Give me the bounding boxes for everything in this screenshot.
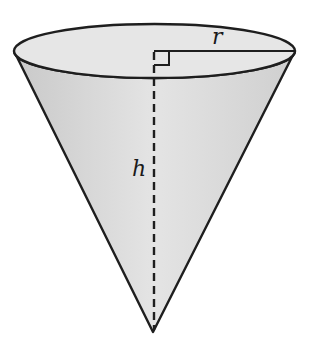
height-label: h <box>132 156 146 181</box>
radius-label: r <box>212 24 224 49</box>
cone-diagram: r h <box>0 0 311 349</box>
